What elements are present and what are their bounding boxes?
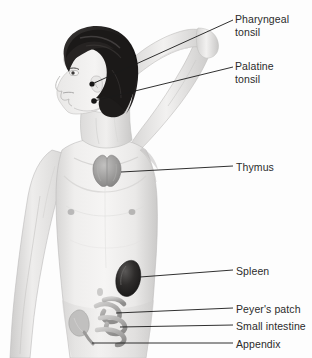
label-pharyngeal-tonsil: Pharyngeal tonsil [235,13,289,38]
eye-pupil [71,71,74,74]
label-spleen: Spleen [236,265,269,278]
head [56,26,139,117]
thymus-organ [93,155,121,186]
body-figure [10,20,233,358]
cecum-shape [69,310,89,336]
label-palatine-tonsil: Palatine tonsil [235,60,274,85]
label-peyers-patch: Peyer's patch [236,303,301,316]
nipple-left [68,209,75,215]
label-thymus: Thymus [236,161,274,174]
nipple-right [129,209,136,215]
anatomy-diagram-page: Pharyngeal tonsil Palatine tonsil Thymus… [0,0,312,358]
navel [97,288,103,296]
label-appendix: Appendix [236,338,281,351]
right-elbow [196,28,218,58]
label-small-intestine: Small intestine [236,320,306,333]
